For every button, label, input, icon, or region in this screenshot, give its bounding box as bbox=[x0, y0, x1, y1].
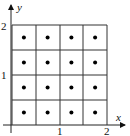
midpoint bbox=[22, 86, 26, 90]
midpoint bbox=[69, 36, 73, 40]
midpoint bbox=[69, 111, 73, 115]
midpoint bbox=[93, 111, 97, 115]
midpoint bbox=[93, 86, 97, 90]
midpoint bbox=[46, 61, 50, 65]
midpoint bbox=[46, 86, 50, 90]
midpoint bbox=[69, 86, 73, 90]
y-tick-2: 2 bbox=[1, 20, 7, 32]
midpoint bbox=[46, 36, 50, 40]
midpoint bbox=[69, 61, 73, 65]
grid-lines bbox=[12, 25, 107, 125]
x-tick-1: 1 bbox=[57, 125, 63, 136]
midpoint bbox=[22, 61, 26, 65]
midpoint bbox=[22, 111, 26, 115]
x-axis-label: x bbox=[115, 111, 121, 123]
midpoint-grid-diagram: 2 1 1 2 x y bbox=[0, 0, 130, 136]
midpoint bbox=[22, 36, 26, 40]
y-tick-1: 1 bbox=[1, 69, 7, 81]
midpoint bbox=[93, 61, 97, 65]
y-axis-label: y bbox=[16, 1, 22, 13]
midpoint bbox=[93, 36, 97, 40]
x-tick-2: 2 bbox=[104, 125, 110, 136]
midpoint bbox=[46, 111, 50, 115]
